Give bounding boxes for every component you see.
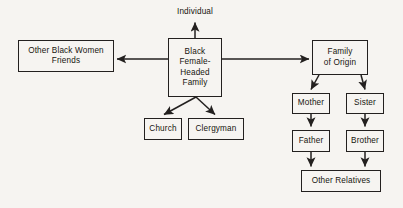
node-family-of-origin[interactable]: Family of Origin: [312, 40, 368, 75]
node-father[interactable]: Father: [292, 130, 330, 152]
label-individual: Individual: [155, 7, 235, 17]
node-sister[interactable]: Sister: [346, 93, 384, 114]
node-black-female-headed-family[interactable]: Black Female- Headed Family: [168, 38, 222, 97]
edge-origin-to-mother: [311, 75, 319, 90]
edge-origin-to-sister: [361, 75, 365, 90]
node-clergyman[interactable]: Clergyman: [188, 118, 244, 140]
node-church[interactable]: Church: [144, 118, 182, 140]
node-brother[interactable]: Brother: [346, 130, 384, 152]
diagram-canvas: Individual Other Black Women Friends Bla…: [0, 0, 403, 208]
edge-family-to-clergyman: [196, 97, 215, 115]
node-mother[interactable]: Mother: [292, 93, 330, 114]
node-other-relatives[interactable]: Other Relatives: [301, 170, 381, 192]
edge-family-to-church: [164, 97, 196, 115]
node-other-black-women-friends[interactable]: Other Black Women Friends: [18, 40, 114, 72]
